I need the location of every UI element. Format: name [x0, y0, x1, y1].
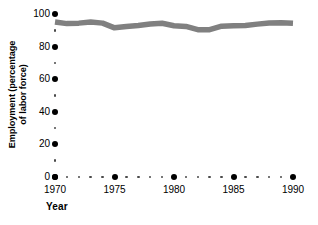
- employment-line-chart: Employment (percentage of labor force) 0…: [0, 0, 318, 225]
- data-series-line: [0, 0, 318, 225]
